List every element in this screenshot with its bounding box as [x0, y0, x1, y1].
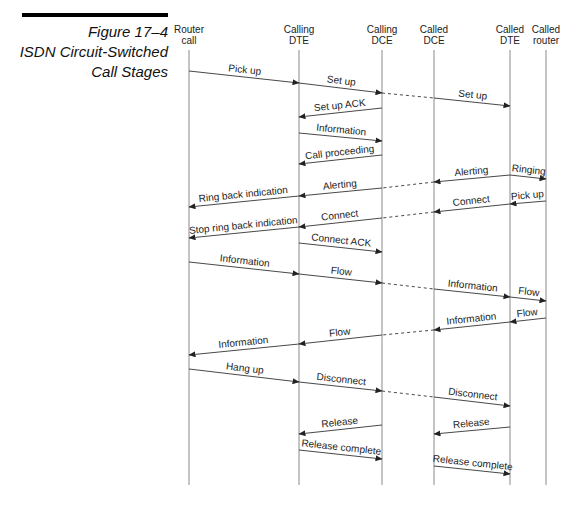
message-arrow	[382, 330, 434, 335]
message-label: Flow	[516, 306, 539, 319]
lifeline-label: Calling	[367, 24, 398, 35]
message-arrow: Hang up	[189, 360, 299, 382]
message-arrow: Set up	[299, 73, 382, 93]
sequence-diagram: RoutercallCallingDTECallingDCECalledDCEC…	[0, 0, 584, 508]
message-arrow: Alerting	[434, 164, 510, 182]
message-arrow: Call proceeding	[299, 143, 382, 164]
message-arrow: Release	[299, 415, 382, 434]
message-arrow: Information	[299, 122, 382, 141]
lifeline-label: router	[533, 35, 560, 46]
message-arrow: Ring back indication	[189, 184, 299, 207]
message-arrow: Flow	[510, 285, 546, 301]
lifeline-label: Called	[420, 24, 448, 35]
message-label: Release complete	[432, 453, 513, 472]
message-label: Pick up	[228, 62, 262, 77]
message-arrow: Flow	[299, 325, 382, 344]
lifeline-label: DTE	[500, 35, 520, 46]
lifeline-calling-dte: CallingDTE	[284, 24, 315, 485]
lifeline-label: DCE	[371, 35, 392, 46]
message-arrow: Flow	[299, 264, 382, 283]
lifeline-called-dte: CalledDTE	[496, 24, 524, 485]
lifeline-label: Called	[532, 24, 560, 35]
message-arrow: Connect	[299, 208, 382, 227]
message-arrow: Stop ring back indication	[188, 214, 299, 238]
message-label: Ring back indication	[198, 184, 288, 204]
message-label: Alerting	[322, 177, 357, 191]
message-label: Flow	[330, 264, 353, 277]
message-label: Connect ACK	[311, 231, 372, 248]
lifeline-called-dce: CalledDCE	[420, 24, 448, 485]
message-label: Set up	[326, 73, 356, 87]
message-label: Alerting	[454, 164, 489, 178]
message-arrow: Alerting	[299, 177, 382, 196]
message-label: Connect	[321, 208, 359, 223]
message-arrow: Set up	[434, 88, 510, 106]
message-label: Hang up	[225, 360, 264, 375]
message-arrow: Connect	[434, 193, 510, 212]
message-arrow: Disconnect	[299, 371, 382, 391]
message-arrow	[382, 182, 434, 188]
message-arrow: Information	[434, 310, 510, 330]
message-arrow: Release	[434, 416, 510, 434]
message-arrow: Flow	[510, 306, 546, 322]
message-label: Pick up	[511, 188, 545, 202]
message-arrow	[382, 93, 434, 98]
messages: Pick upSet upSet upSet up ACKInformation…	[188, 62, 546, 474]
message-label: Release	[321, 415, 359, 430]
message-label: Release complete	[301, 437, 382, 457]
lifeline-router: Routercall	[174, 24, 205, 485]
message-label: Connect	[452, 193, 490, 208]
message-arrow	[382, 212, 434, 218]
message-arrow: Disconnect	[434, 386, 510, 406]
message-arrow: Information	[189, 252, 299, 274]
lifeline-label: call	[181, 35, 196, 46]
lifeline-label: DTE	[289, 35, 309, 46]
message-arrow: Information	[189, 334, 299, 355]
message-arrow: Pick up	[189, 62, 299, 83]
message-label: Call proceeding	[305, 143, 375, 161]
message-arrow: Connect ACK	[299, 231, 382, 252]
message-arrow: Ringing	[510, 162, 546, 179]
message-label: Ringing	[511, 162, 546, 177]
lifeline-label: Called	[496, 24, 524, 35]
lifeline-label: Calling	[284, 24, 315, 35]
message-label: Flow	[329, 325, 352, 338]
message-arrow: Information	[434, 277, 510, 297]
message-arrow: Set up ACK	[299, 97, 382, 117]
message-arrow: Release complete	[299, 437, 382, 459]
lifeline-label: Router	[174, 24, 205, 35]
message-arrow	[382, 391, 434, 397]
message-label: Flow	[518, 285, 541, 298]
message-label: Release	[453, 416, 491, 430]
lifeline-label: DCE	[423, 35, 444, 46]
message-arrow: Pick up	[510, 188, 546, 204]
message-arrow: Release complete	[432, 453, 513, 474]
lifeline-called-router: Calledrouter	[532, 24, 560, 485]
message-label: Set up	[458, 88, 488, 102]
message-arrow	[382, 283, 434, 289]
